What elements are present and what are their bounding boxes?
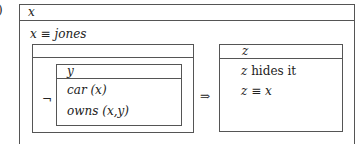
example-label: ) (0, 3, 3, 17)
consequent-referent: z (242, 44, 248, 58)
implication-arrow: ⇒ (200, 89, 210, 103)
outer-divider (20, 20, 354, 21)
consequent-condition-hides: z hides it (241, 64, 296, 78)
inner-referent: y (67, 64, 74, 78)
consequent-divider (220, 58, 342, 59)
inner-divider (57, 78, 181, 79)
antecedent-divider (33, 57, 193, 58)
inner-condition-owns: owns (x,y) (67, 104, 129, 118)
consequent-drs-box: z z hides it z ≡ x (219, 44, 343, 132)
inner-drs-box: y car (x) owns (x,y) (56, 64, 182, 126)
inner-condition-car: car (x) (67, 83, 107, 97)
consequent-condition-equiv: z ≡ x (241, 84, 272, 98)
outer-referent: x (28, 5, 35, 19)
outer-condition: x ≡ jones (30, 27, 86, 41)
negation-symbol: ¬ (42, 93, 52, 107)
